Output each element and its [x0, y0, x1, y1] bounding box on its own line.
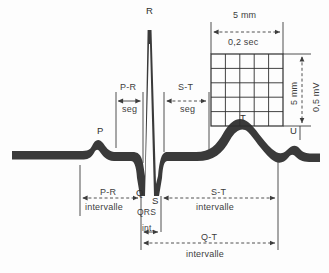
- st-interval-top-label: S-T: [211, 188, 226, 197]
- pr-interval-bottom-label: intervalle: [85, 203, 123, 212]
- qt-interval-bottom-label: intervalle: [186, 250, 224, 259]
- qt-interval-top-label: Q-T: [201, 233, 217, 242]
- ecg-diagram-figure: R P Q S T U 5 mm 0,2 sec 5 mm 0,5 mV P-R…: [0, 0, 329, 273]
- wave-label-s: S: [152, 196, 159, 206]
- calibration-width-time-label: 0,2 sec: [228, 38, 258, 47]
- qrs-interval-bottom-label: int.: [142, 224, 154, 233]
- ecg-diagram-svg: [0, 0, 329, 273]
- pr-interval-top-label: P-R: [100, 188, 116, 197]
- wave-label-t: T: [240, 113, 246, 123]
- qrs-interval-top-label: QRS: [137, 208, 156, 217]
- calibration-width-mm-label: 5 mm: [233, 11, 256, 20]
- st-segment-measure: [164, 92, 209, 152]
- pr-segment-bottom-label: seg: [122, 105, 137, 114]
- calibration-grid-box: [211, 54, 283, 126]
- st-segment-top-label: S-T: [178, 83, 193, 92]
- calibration-height-mm-label: 5 mm: [290, 82, 299, 105]
- ecg-trace: [12, 30, 320, 196]
- wave-label-u: U: [290, 126, 297, 136]
- wave-label-r: R: [146, 6, 153, 16]
- pr-segment-top-label: P-R: [120, 83, 136, 92]
- st-segment-bottom-label: seg: [180, 105, 195, 114]
- wave-label-q: Q: [136, 188, 144, 198]
- calibration-height-voltage-label: 0,5 mV: [312, 82, 321, 112]
- st-interval-bottom-label: intervalle: [196, 203, 234, 212]
- wave-label-p: P: [97, 126, 104, 136]
